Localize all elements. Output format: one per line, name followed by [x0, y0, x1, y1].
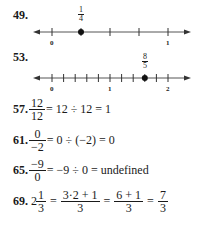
- point-label-fraction: 1 4: [76, 6, 86, 23]
- fraction: 0 −2: [30, 128, 45, 153]
- plotted-point: [78, 29, 84, 35]
- equation-61: 61. 0 −2 = 0 ÷ (−2) = 0: [13, 128, 115, 153]
- tick-label-0: 0: [50, 85, 54, 93]
- numerator: 1: [76, 6, 86, 14]
- problem-number-61: 61.: [13, 133, 28, 148]
- equation-rest: = −9 ÷ 0 = undefined: [47, 163, 149, 178]
- problem-number-69: 69.: [13, 194, 28, 209]
- equation-rest: = 0 ÷ (−2) = 0: [47, 133, 115, 148]
- problem-number-65: 65.: [13, 163, 28, 178]
- step1-fraction: 3·2 + 1 3: [62, 189, 99, 214]
- mixed-fraction: 1 3: [37, 189, 45, 214]
- problem-number-49: 49.: [13, 8, 28, 23]
- denominator: 5: [140, 62, 150, 70]
- problem-number-57: 57.: [13, 102, 28, 117]
- tick-label-1: 1: [108, 85, 112, 93]
- equation-69: 69. 2 1 3 = 3·2 + 1 3 = 6 + 1 3 = 7 3: [13, 189, 169, 214]
- plotted-point: [142, 75, 148, 81]
- numerator: 8: [140, 53, 150, 61]
- equals-sign: =: [147, 194, 154, 209]
- step2-fraction: 6 + 1 3: [115, 189, 142, 214]
- tick-label-1: 1: [166, 39, 170, 47]
- equals-sign: =: [104, 194, 111, 209]
- denominator: 4: [76, 15, 86, 23]
- point-label-fraction: 8 5: [140, 53, 150, 70]
- number-line-53: [0, 70, 204, 86]
- fraction: −9 0: [30, 158, 45, 183]
- problem-number-53: 53.: [13, 50, 28, 65]
- fraction: 12 12: [30, 97, 44, 122]
- equation-65: 65. −9 0 = −9 ÷ 0 = undefined: [13, 158, 149, 183]
- tick-label-0: 0: [50, 39, 54, 47]
- equation-rest: = 12 ÷ 12 = 1: [46, 102, 111, 117]
- equals-sign: =: [50, 194, 57, 209]
- result-fraction: 7 3: [159, 189, 167, 214]
- equation-57: 57. 12 12 = 12 ÷ 12 = 1: [13, 97, 111, 122]
- number-line-49: [0, 24, 204, 40]
- tick-label-2: 2: [166, 85, 170, 93]
